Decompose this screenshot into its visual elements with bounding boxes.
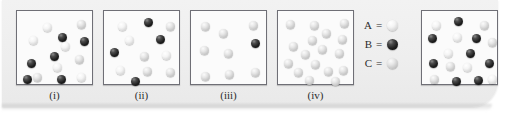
sphere-a bbox=[43, 23, 52, 32]
sphere-c bbox=[322, 29, 331, 38]
legend-swatch-c bbox=[387, 58, 398, 69]
sphere-c bbox=[488, 38, 497, 47]
sphere-c bbox=[166, 22, 175, 31]
figure-root: (i)(ii)(iii)(iv) A=B=C= bbox=[0, 0, 512, 119]
sphere-b bbox=[454, 17, 463, 26]
sphere-c bbox=[324, 67, 333, 76]
sphere-a bbox=[463, 63, 472, 72]
sphere-c bbox=[284, 59, 293, 68]
sphere-c bbox=[305, 76, 314, 85]
panel-label-ii: (ii) bbox=[103, 89, 180, 102]
sphere-a bbox=[488, 75, 497, 84]
sphere-c bbox=[338, 35, 347, 44]
sphere-a bbox=[453, 33, 462, 42]
sphere-c bbox=[77, 20, 86, 29]
sphere-c bbox=[335, 49, 344, 58]
legend-equals-sign: = bbox=[376, 57, 382, 69]
sphere-c bbox=[225, 70, 234, 79]
sphere-c bbox=[308, 36, 317, 45]
sphere-a bbox=[116, 66, 125, 75]
sphere-c bbox=[201, 72, 210, 81]
panel-i bbox=[16, 10, 93, 85]
legend-swatch-a bbox=[387, 20, 398, 31]
sphere-b bbox=[428, 34, 437, 43]
sphere-c bbox=[33, 73, 42, 82]
sphere-a bbox=[53, 63, 62, 72]
sphere-b bbox=[429, 59, 438, 68]
sphere-c bbox=[286, 20, 295, 29]
panel-v bbox=[421, 10, 498, 85]
sphere-c bbox=[75, 55, 84, 64]
sphere-c bbox=[249, 21, 258, 30]
sphere-c bbox=[318, 45, 327, 54]
sphere-c bbox=[219, 29, 228, 38]
sphere-c bbox=[446, 62, 455, 71]
panel-contents-iii bbox=[191, 11, 266, 84]
legend-row-a: A= bbox=[360, 16, 418, 34]
panel-contents-ii bbox=[104, 11, 179, 84]
sphere-c bbox=[251, 68, 260, 77]
panel-label-i: (i) bbox=[16, 89, 93, 102]
panel-ii bbox=[103, 10, 180, 85]
panel-iv bbox=[277, 10, 354, 85]
sphere-b bbox=[27, 59, 36, 68]
sphere-a bbox=[125, 36, 134, 45]
sphere-c bbox=[289, 42, 298, 51]
sphere-b bbox=[57, 75, 66, 84]
sphere-c bbox=[301, 50, 310, 59]
sphere-b bbox=[50, 52, 59, 61]
sphere-b bbox=[23, 75, 32, 84]
sphere-c bbox=[331, 77, 340, 86]
sphere-a bbox=[118, 22, 127, 31]
sphere-b bbox=[251, 39, 260, 48]
sphere-b bbox=[58, 33, 67, 42]
sphere-b bbox=[452, 77, 461, 86]
sphere-c bbox=[140, 52, 149, 61]
sphere-c bbox=[201, 22, 210, 31]
panel-contents-iv bbox=[278, 11, 353, 84]
sphere-c bbox=[166, 68, 175, 77]
sphere-a bbox=[61, 42, 70, 51]
legend-key-a: A bbox=[360, 19, 372, 31]
panel-label-iii: (iii) bbox=[190, 89, 267, 102]
sphere-c bbox=[430, 75, 439, 84]
sphere-a bbox=[29, 36, 38, 45]
panel-contents-i bbox=[17, 11, 92, 84]
sphere-c bbox=[311, 60, 320, 69]
sphere-a bbox=[432, 21, 441, 30]
sphere-a bbox=[444, 49, 453, 58]
panel-label-iv: (iv) bbox=[277, 89, 354, 102]
legend-key-b: B bbox=[360, 38, 372, 50]
legend-equals-sign: = bbox=[376, 38, 382, 50]
sphere-c bbox=[340, 19, 349, 28]
sphere-c bbox=[310, 21, 319, 30]
sphere-c bbox=[200, 46, 209, 55]
panel-iii bbox=[190, 10, 267, 85]
legend-row-b: B= bbox=[360, 35, 418, 53]
sphere-b bbox=[156, 35, 165, 44]
legend-equals-sign: = bbox=[376, 19, 382, 31]
sphere-a bbox=[77, 73, 86, 82]
sphere-c bbox=[480, 21, 489, 30]
sphere-b bbox=[466, 49, 475, 58]
legend-row-c: C= bbox=[360, 54, 418, 72]
sphere-b bbox=[474, 76, 483, 85]
sphere-b bbox=[144, 18, 153, 27]
sphere-c bbox=[143, 67, 152, 76]
sphere-b bbox=[80, 37, 89, 46]
sphere-c bbox=[339, 66, 348, 75]
sphere-b bbox=[131, 77, 140, 86]
sphere-b bbox=[485, 59, 494, 68]
sphere-a bbox=[162, 51, 171, 60]
sphere-c bbox=[224, 49, 233, 58]
panel-contents-v bbox=[422, 11, 497, 84]
panels-layer: (i)(ii)(iii)(iv) bbox=[0, 0, 512, 119]
sphere-b bbox=[472, 34, 481, 43]
legend-swatch-b bbox=[387, 39, 398, 50]
legend-key-c: C bbox=[360, 57, 372, 69]
sphere-b bbox=[110, 48, 119, 57]
legend: A=B=C= bbox=[360, 16, 418, 74]
sphere-c bbox=[294, 68, 303, 77]
